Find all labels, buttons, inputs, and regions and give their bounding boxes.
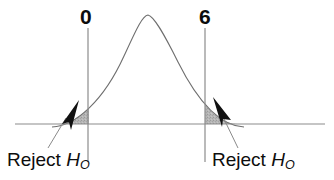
distribution-curve xyxy=(52,15,244,127)
tick-label-right: 6 xyxy=(199,6,211,27)
tick-label-left: 0 xyxy=(80,6,92,27)
reject-label-right-prefix: Reject xyxy=(212,149,271,170)
hypothesis-test-figure: 0 6 Reject HO Reject HO xyxy=(0,0,334,180)
reject-label-right-subscript: O xyxy=(285,158,295,172)
reject-label-left-subscript: O xyxy=(80,158,90,172)
reject-label-right: Reject HO xyxy=(212,150,295,169)
right-rejection-region xyxy=(205,10,245,126)
reject-label-right-symbol: H xyxy=(271,149,285,170)
reject-label-left: Reject HO xyxy=(7,150,90,169)
reject-label-left-symbol: H xyxy=(66,149,80,170)
reject-label-left-prefix: Reject xyxy=(7,149,66,170)
